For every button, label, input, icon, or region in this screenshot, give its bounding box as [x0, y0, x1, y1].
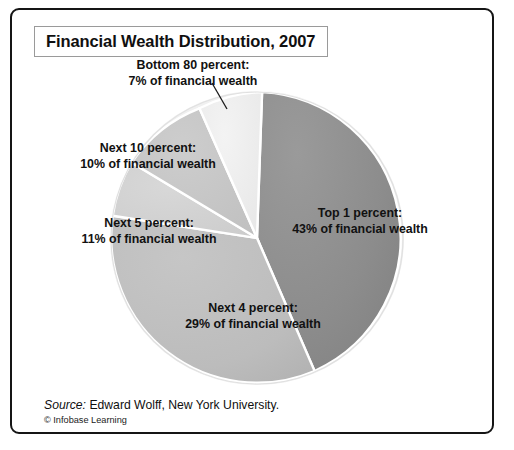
slice-label-bottom-80-line1: Bottom 80 percent: — [137, 58, 250, 72]
copyright-notice: © Infobase Learning — [44, 415, 424, 425]
slice-label-bottom-80-line2: 7% of financial wealth — [88, 74, 298, 90]
slice-label-next-5-line2: 11% of financial wealth — [54, 232, 244, 248]
slice-label-next-5-percent: Next 5 percent: 11% of financial wealth — [54, 216, 244, 247]
slice-label-next-10-percent: Next 10 percent: 10% of financial wealth — [48, 141, 248, 172]
source-value: Edward Wolff, New York University. — [86, 398, 279, 412]
pie-chart: Bottom 80 percent: 7% of financial wealt… — [12, 10, 496, 436]
source-block: Source: Edward Wolff, New York Universit… — [44, 398, 424, 425]
slice-label-top-1-line1: Top 1 percent: — [318, 206, 402, 220]
source-label: Source: — [44, 398, 86, 412]
slice-label-next-4-line2: 29% of financial wealth — [158, 317, 348, 333]
figure-frame: Financial Wealth Distribution, 2007 — [10, 8, 494, 434]
source-line: Source: Edward Wolff, New York Universit… — [44, 398, 424, 413]
slice-label-next-4-percent: Next 4 percent: 29% of financial wealth — [158, 301, 348, 332]
slice-label-top-1-percent: Top 1 percent: 43% of financial wealth — [265, 206, 455, 237]
slice-label-next-10-line2: 10% of financial wealth — [48, 157, 248, 173]
slice-label-next-4-line1: Next 4 percent: — [208, 301, 298, 315]
slice-label-next-10-line1: Next 10 percent: — [100, 141, 196, 155]
slice-label-top-1-line2: 43% of financial wealth — [265, 222, 455, 238]
slice-label-bottom-80-percent: Bottom 80 percent: 7% of financial wealt… — [88, 58, 298, 89]
slice-label-next-5-line1: Next 5 percent: — [104, 216, 194, 230]
